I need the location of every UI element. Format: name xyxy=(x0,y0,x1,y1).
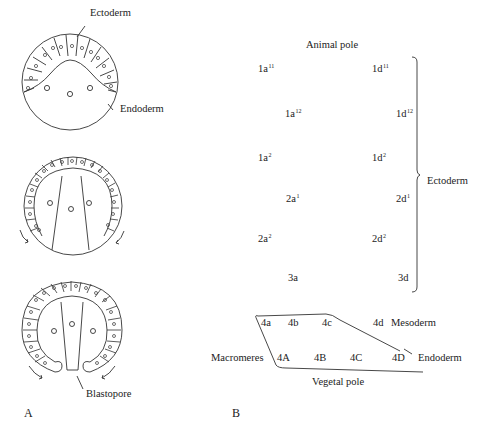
cell-1d2: 1d2 xyxy=(372,152,386,164)
cell-1a2: 1a2 xyxy=(258,152,271,164)
cell-2a2: 2a2 xyxy=(258,233,271,245)
cell-1d12: 1d12 xyxy=(396,108,413,120)
cell-4A: 4A xyxy=(277,353,290,364)
animal-pole-label: Animal pole xyxy=(306,40,358,51)
cell-4B: 4B xyxy=(314,353,326,364)
cell-4C: 4C xyxy=(350,353,362,364)
cell-4b: 4b xyxy=(288,318,299,329)
endoderm-label-a: Endoderm xyxy=(120,104,164,115)
cell-4D: 4D xyxy=(392,353,405,364)
cell-1a12: 1a12 xyxy=(285,108,301,120)
cell-2d1: 2d1 xyxy=(396,193,410,205)
gastrula-stage-2 xyxy=(20,157,124,255)
cell-1d11: 1d11 xyxy=(372,63,389,75)
gastrulation-diagram xyxy=(0,0,493,432)
cell-2d2: 2d2 xyxy=(372,233,386,245)
cell-1a11: 1a11 xyxy=(258,63,274,75)
cell-3d: 3d xyxy=(398,273,409,284)
blastula-stage-1 xyxy=(22,26,118,130)
cell-2a1: 2a1 xyxy=(286,193,299,205)
endoderm-label-b: Endoderm xyxy=(418,353,462,364)
macromeres-label: Macromeres xyxy=(211,353,263,364)
blastopore-label: Blastopore xyxy=(86,389,132,400)
cell-4d: 4d xyxy=(373,318,384,329)
panel-label-a: A xyxy=(24,406,33,421)
cell-3a: 3a xyxy=(288,273,298,284)
ectoderm-label-b: Ectoderm xyxy=(427,176,468,187)
cell-4a: 4a xyxy=(261,318,271,329)
cell-4c: 4c xyxy=(322,318,332,329)
ectoderm-brace xyxy=(412,57,420,292)
mesoderm-label: Mesoderm xyxy=(391,318,436,329)
panel-label-b: B xyxy=(232,406,240,421)
gastrula-stage-3 xyxy=(22,281,122,389)
ectoderm-label-a: Ectoderm xyxy=(90,8,131,19)
vegetal-pole-label: Vegetal pole xyxy=(312,377,364,388)
